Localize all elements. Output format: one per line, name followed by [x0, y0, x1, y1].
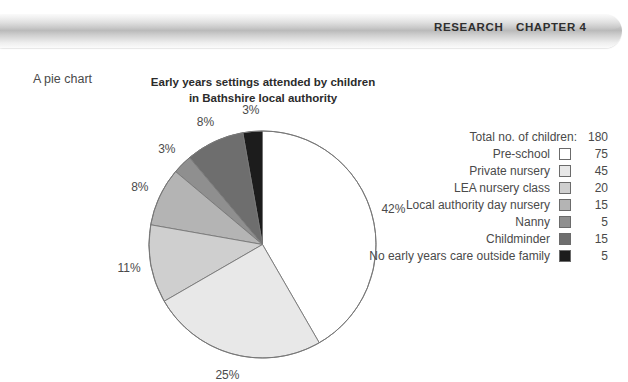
- legend-row: Local authority day nursery15: [188, 196, 608, 213]
- legend-rows: Pre-school75Private nursery45LEA nursery…: [188, 145, 608, 264]
- legend-color-swatch: [559, 182, 571, 194]
- pie-percent-label: 25%: [215, 368, 239, 382]
- legend-value: 15: [578, 198, 608, 212]
- legend-label: No early years care outside family: [369, 249, 550, 263]
- header-research-label: RESEARCH: [434, 21, 503, 33]
- legend-row: Private nursery45: [188, 162, 608, 179]
- pie-percent-label: 11%: [118, 261, 141, 275]
- legend-row: Pre-school75: [188, 145, 608, 162]
- pie-percent-label: 8%: [197, 115, 214, 129]
- legend-row: Childminder15: [188, 230, 608, 247]
- chart-title: Early years settings attended by childre…: [148, 74, 378, 106]
- legend-color-swatch: [559, 216, 571, 228]
- legend-label: Local authority day nursery: [406, 198, 550, 212]
- pie-percent-label: 3%: [158, 142, 175, 156]
- legend-value: 75: [578, 147, 608, 161]
- legend-color-swatch: [559, 199, 571, 211]
- legend-total-value: 180: [582, 130, 608, 144]
- legend-color-swatch: [559, 148, 571, 160]
- legend-color-swatch: [559, 233, 571, 245]
- legend-color-swatch: [559, 165, 571, 177]
- legend-value: 5: [578, 249, 608, 263]
- legend-total-row: Total no. of children: 180: [188, 128, 608, 145]
- chart-title-line-1: Early years settings attended by childre…: [151, 76, 375, 88]
- chart-title-line-2: in Bathshire local authority: [148, 90, 378, 106]
- legend-row: No early years care outside family5: [188, 247, 608, 264]
- figure-caption: A pie chart: [33, 72, 92, 86]
- legend-color-swatch: [559, 250, 571, 262]
- legend-label: Childminder: [486, 232, 550, 246]
- legend-value: 15: [578, 232, 608, 246]
- legend-label: Pre-school: [493, 147, 550, 161]
- legend-value: 45: [578, 164, 608, 178]
- legend-label: Nanny: [515, 215, 550, 229]
- legend-label: LEA nursery class: [454, 181, 550, 195]
- pie-percent-label: 8%: [131, 180, 148, 194]
- legend-label: Private nursery: [469, 164, 550, 178]
- chart-legend: Total no. of children: 180 Pre-school75P…: [188, 128, 608, 264]
- pie-percent-label: 3%: [242, 103, 259, 117]
- header-chapter-label: CHAPTER 4: [516, 21, 587, 33]
- legend-value: 5: [578, 215, 608, 229]
- legend-row: LEA nursery class20: [188, 179, 608, 196]
- legend-row: Nanny5: [188, 213, 608, 230]
- legend-value: 20: [578, 181, 608, 195]
- legend-total-label: Total no. of children:: [470, 130, 577, 144]
